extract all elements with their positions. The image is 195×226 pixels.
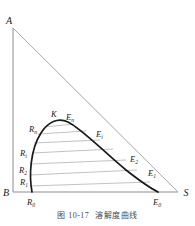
extract-labels-group: E0 E1 E2 Ei En — [65, 112, 161, 208]
figure-caption-number: 图 10-17 — [57, 211, 89, 220]
figure-caption: 图 10-17溶解度曲线 — [0, 209, 195, 220]
tie-line — [30, 160, 126, 164]
tie-line — [38, 131, 86, 134]
raffinate-labels-group: R0 R1 R2 Ri Rn — [18, 124, 37, 208]
raffinate-label-Ri: Ri — [19, 148, 27, 159]
extract-label-E1: E1 — [147, 168, 156, 179]
extract-label-E0: E0 — [152, 197, 161, 208]
raffinate-label-Rn: Rn — [28, 124, 37, 135]
raffinate-label-R1: R1 — [19, 177, 28, 188]
extract-label-En: En — [65, 112, 74, 123]
figure-caption-text: 溶解度曲线 — [95, 211, 138, 220]
ternary-phase-diagram: A B S K R0 R1 R2 Ri Rn E0 — [0, 0, 195, 226]
raffinate-label-R2: R2 — [18, 165, 27, 176]
figure-container: A B S K R0 R1 R2 Ri Rn E0 — [0, 0, 195, 226]
tie-line — [32, 149, 113, 153]
tie-line — [30, 170, 137, 175]
raffinate-label-R0: R0 — [26, 197, 35, 208]
plait-point-label-K: K — [50, 109, 58, 119]
vertex-label-B: B — [3, 187, 9, 198]
extract-label-E2: E2 — [129, 154, 138, 165]
vertex-label-S: S — [184, 187, 189, 198]
vertex-label-A: A — [5, 15, 13, 26]
solubility-curve — [31, 120, 158, 192]
tie-line — [34, 140, 100, 143]
triangle-hypotenuse — [13, 28, 178, 192]
tie-line — [30, 182, 150, 186]
extract-label-Ei: Ei — [95, 129, 103, 140]
